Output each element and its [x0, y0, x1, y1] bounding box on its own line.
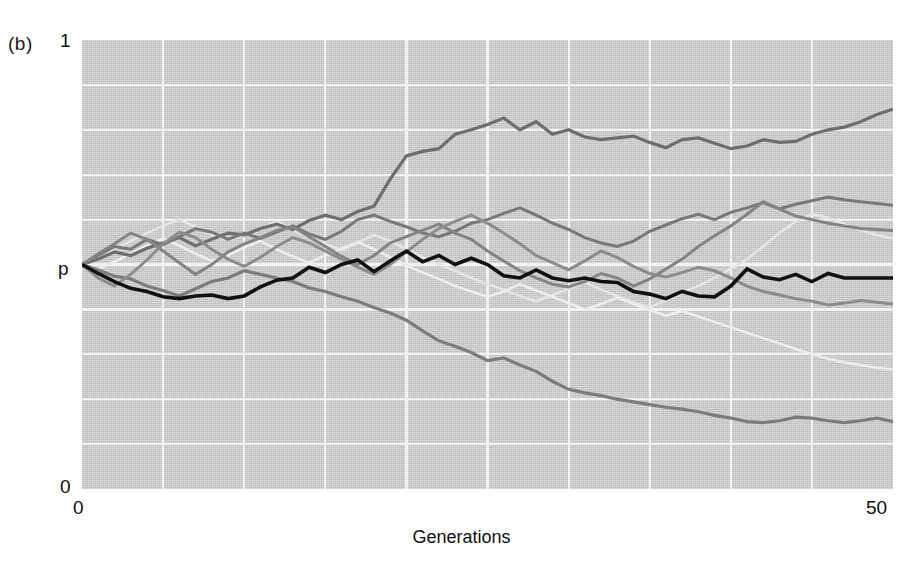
x-axis-title: Generations [0, 527, 923, 548]
x-axis-tick-left: 0 [73, 497, 84, 519]
trace-gray-falling-bottom [82, 265, 893, 423]
figure-panel: (b) 1 p 0 0 50 Generations [0, 0, 923, 570]
series-lines [82, 40, 893, 489]
y-axis-tick-top: 1 [60, 30, 71, 52]
trace-light-lower [82, 238, 893, 369]
y-axis-tick-bottom: 0 [60, 476, 71, 498]
panel-label: (b) [8, 33, 33, 55]
trace-gray-mid-upper [82, 197, 893, 264]
trace-gray-crossing [82, 215, 893, 305]
plot-area [82, 40, 893, 489]
x-axis-tick-right: 50 [866, 497, 887, 519]
y-axis-tick-mid: p [58, 258, 69, 280]
